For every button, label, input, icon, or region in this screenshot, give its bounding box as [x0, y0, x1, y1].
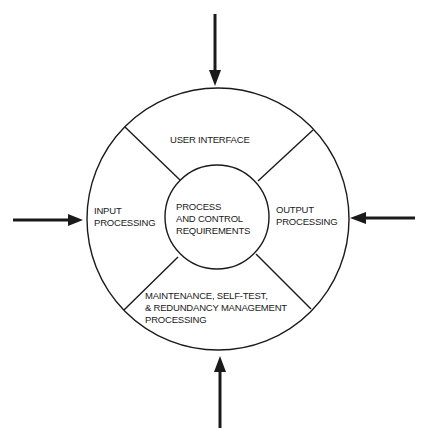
- arrow-top-icon: [209, 14, 221, 86]
- label-line: AND CONTROL: [176, 213, 250, 225]
- divider-top-right: [258, 130, 313, 181]
- label-line: USER INTERFACE: [170, 134, 250, 146]
- label-line: PROCESS: [176, 201, 250, 213]
- label-line: PROCESSING: [145, 314, 287, 326]
- label-line: OUTPUT: [276, 204, 337, 216]
- segment-label-user-interface: USER INTERFACE: [170, 134, 250, 146]
- arrow-left-icon: [13, 214, 83, 226]
- segment-label-input-processing: INPUT PROCESSING: [94, 205, 155, 229]
- label-line: INPUT: [94, 205, 155, 217]
- label-line: REQUIREMENTS: [176, 225, 250, 237]
- segment-label-maintenance: MAINTENANCE, SELF-TEST, & REDUNDANCY MAN…: [145, 290, 287, 326]
- center-label-process-control: PROCESS AND CONTROL REQUIREMENTS: [176, 201, 250, 237]
- label-line: MAINTENANCE, SELF-TEST,: [145, 290, 287, 302]
- segment-label-output-processing: OUTPUT PROCESSING: [276, 204, 337, 228]
- arrow-right-icon: [350, 212, 415, 224]
- label-line: & REDUNDANCY MANAGEMENT: [145, 302, 287, 314]
- diagram-canvas: USER INTERFACE INPUT PROCESSING OUTPUT P…: [0, 0, 428, 439]
- label-line: PROCESSING: [94, 217, 155, 229]
- label-line: PROCESSING: [276, 216, 337, 228]
- arrow-bottom-icon: [214, 356, 226, 428]
